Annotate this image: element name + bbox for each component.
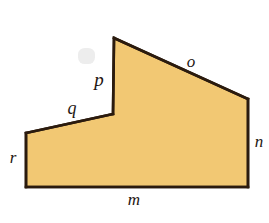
side-label-q: q [68,99,77,117]
side-label-o: o [187,53,196,70]
side-label-n: n [255,133,264,150]
edge-p [113,38,114,114]
side-label-p: p [94,70,104,89]
side-label-m: m [128,191,140,208]
side-label-r: r [10,149,17,166]
figure-canvas: o n m r q p [0,0,269,223]
shaded-polygon [26,38,248,187]
